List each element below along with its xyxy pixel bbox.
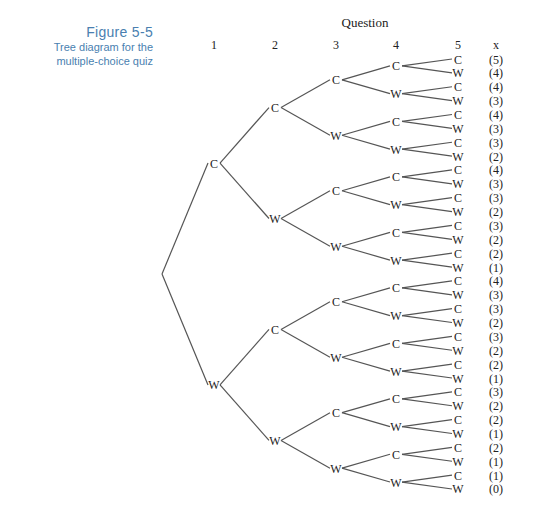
- leaf-score: (0): [489, 482, 503, 496]
- leaf-score: (4): [489, 163, 503, 177]
- leaf-score: (3): [489, 136, 503, 150]
- leaf-score: (1): [489, 427, 503, 441]
- node-q3-wrong: W: [330, 240, 342, 254]
- node-q4-correct: C: [392, 59, 400, 73]
- node-q5-wrong: W: [452, 288, 464, 302]
- tree-edges: [162, 59, 452, 489]
- node-q2-wrong: W: [269, 434, 281, 448]
- node-q5-correct: C: [454, 274, 462, 288]
- node-q5-wrong: W: [452, 455, 464, 469]
- node-q2-correct: C: [271, 101, 279, 115]
- leaf-score: (3): [489, 385, 503, 399]
- node-q5-wrong: W: [452, 482, 464, 496]
- node-q1-wrong: W: [208, 378, 220, 392]
- node-q5-correct: C: [454, 53, 462, 67]
- node-q4-wrong: W: [390, 309, 402, 323]
- leaf-score: (2): [489, 358, 503, 372]
- node-q5-wrong: W: [452, 177, 464, 191]
- node-q2-wrong: W: [269, 212, 281, 226]
- node-q4-wrong: W: [390, 476, 402, 490]
- leaf-score: (2): [489, 247, 503, 261]
- node-q4-wrong: W: [390, 254, 402, 268]
- node-q4-correct: C: [392, 392, 400, 406]
- node-q5-wrong: W: [452, 150, 464, 164]
- node-q4-wrong: W: [390, 87, 402, 101]
- node-q5-wrong: W: [452, 316, 464, 330]
- leaf-score: (3): [489, 122, 503, 136]
- node-q5-correct: C: [454, 385, 462, 399]
- leaf-score: (1): [489, 372, 503, 386]
- node-q5-wrong: W: [452, 427, 464, 441]
- leaf-score: (4): [489, 66, 503, 80]
- node-q4-wrong: W: [390, 365, 402, 379]
- leaf-score: (1): [489, 261, 503, 275]
- node-q3-correct: C: [332, 184, 340, 198]
- question-column-headers: 12345x: [211, 38, 499, 52]
- leaf-score: (3): [489, 288, 503, 302]
- axis-title-question: Question: [342, 15, 389, 30]
- node-q3-wrong: W: [330, 462, 342, 476]
- node-q5-wrong: W: [452, 399, 464, 413]
- column-header-score: x: [493, 38, 499, 52]
- node-q4-wrong: W: [390, 198, 402, 212]
- column-header-5: 5: [455, 38, 461, 52]
- column-header-1: 1: [211, 38, 217, 52]
- leaf-score: (1): [489, 455, 503, 469]
- node-q3-wrong: W: [330, 351, 342, 365]
- node-q5-correct: C: [454, 247, 462, 261]
- leaf-score: (2): [489, 441, 503, 455]
- node-q5-correct: C: [454, 302, 462, 316]
- node-q4-correct: C: [392, 448, 400, 462]
- node-q4-wrong: W: [390, 143, 402, 157]
- leaf-score: (2): [489, 205, 503, 219]
- node-q3-correct: C: [332, 295, 340, 309]
- node-q5-wrong: W: [452, 122, 464, 136]
- node-q4-wrong: W: [390, 420, 402, 434]
- leaf-score: (4): [489, 108, 503, 122]
- node-q5-wrong: W: [452, 344, 464, 358]
- node-q5-correct: C: [454, 469, 462, 483]
- score-column: (5)(4)(4)(3)(4)(3)(3)(2)(4)(3)(3)(2)(3)(…: [489, 53, 503, 497]
- node-q4-correct: C: [392, 226, 400, 240]
- column-header-3: 3: [333, 38, 339, 52]
- node-q4-correct: C: [392, 337, 400, 351]
- tree-diagram: Question 12345x CWCWCWCWCWCWCWCWCWCWCWCW…: [0, 0, 545, 517]
- node-q5-correct: C: [454, 108, 462, 122]
- leaf-score: (1): [489, 469, 503, 483]
- node-q5-correct: C: [454, 80, 462, 94]
- node-q5-correct: C: [454, 136, 462, 150]
- node-q5-correct: C: [454, 191, 462, 205]
- node-q5-wrong: W: [452, 261, 464, 275]
- leaf-score: (2): [489, 399, 503, 413]
- node-q5-wrong: W: [452, 372, 464, 386]
- leaf-score: (3): [489, 191, 503, 205]
- leaf-score: (2): [489, 150, 503, 164]
- leaf-score: (2): [489, 233, 503, 247]
- leaf-score: (2): [489, 344, 503, 358]
- leaf-score: (3): [489, 94, 503, 108]
- node-q5-wrong: W: [452, 205, 464, 219]
- leaf-score: (5): [489, 53, 503, 67]
- node-q3-wrong: W: [330, 129, 342, 143]
- node-q5-correct: C: [454, 330, 462, 344]
- leaf-score: (3): [489, 330, 503, 344]
- node-q5-correct: C: [454, 163, 462, 177]
- node-q2-correct: C: [271, 323, 279, 337]
- column-header-2: 2: [272, 38, 278, 52]
- leaf-score: (3): [489, 177, 503, 191]
- node-q1-correct: C: [210, 157, 218, 171]
- leaf-score: (3): [489, 219, 503, 233]
- leaf-score: (3): [489, 302, 503, 316]
- leaf-score: (2): [489, 316, 503, 330]
- leaf-score: (2): [489, 413, 503, 427]
- node-q5-correct: C: [454, 413, 462, 427]
- leaf-score: (4): [489, 274, 503, 288]
- node-q5-correct: C: [454, 441, 462, 455]
- node-q5-correct: C: [454, 219, 462, 233]
- node-q3-correct: C: [332, 73, 340, 87]
- leaf-score: (4): [489, 80, 503, 94]
- node-q4-correct: C: [392, 281, 400, 295]
- node-q3-correct: C: [332, 406, 340, 420]
- node-q4-correct: C: [392, 170, 400, 184]
- node-q5-wrong: W: [452, 94, 464, 108]
